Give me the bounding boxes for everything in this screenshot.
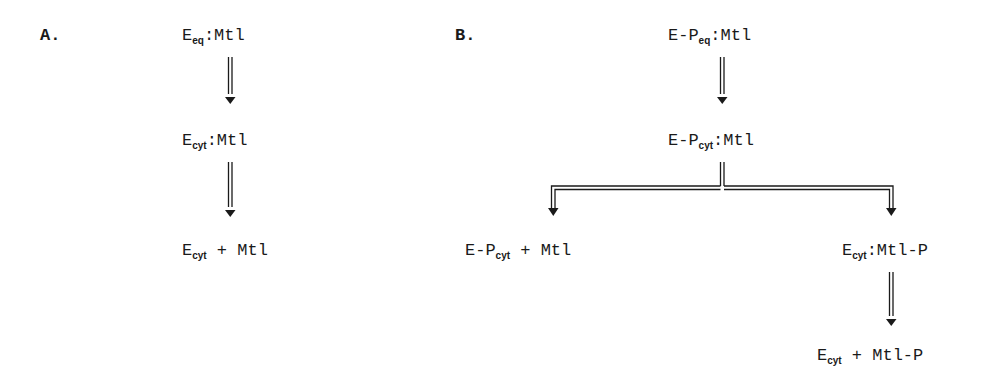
species-b-ep-cyt-plus-mtl: E-Pcyt + Mtl: [465, 241, 571, 261]
arrowhead-icon: [225, 97, 236, 104]
species-b-e-cyt-mtl-p: Ecyt:Mtl-P: [842, 241, 928, 261]
species-main: E: [182, 131, 192, 150]
arrow-b-branch-right: [724, 186, 893, 208]
species-rest: + Mtl: [510, 241, 571, 260]
species-subscript: cyt: [496, 250, 510, 261]
species-main: E: [182, 241, 192, 260]
species-rest: + Mtl-P: [842, 346, 924, 365]
species-subscript: eq: [699, 35, 711, 46]
arrow-a-cyt-to-dissociated: [229, 162, 233, 207]
species-subscript: cyt: [827, 355, 841, 366]
species-rest: :Mtl: [207, 131, 248, 150]
species-rest: + Mtl: [207, 241, 268, 260]
species-a-e-eq-mtl: Eeq:Mtl: [182, 26, 245, 46]
arrowhead-icon: [886, 319, 897, 326]
arrowhead-icon: [225, 210, 236, 217]
species-subscript: cyt: [699, 140, 713, 151]
panel-b-label: B.: [455, 26, 475, 45]
species-main: E-P: [668, 131, 699, 150]
species-rest: :Mtl: [713, 131, 754, 150]
species-main: E: [182, 26, 192, 45]
arrow-b-branch-left: [552, 186, 721, 208]
species-b-ep-cyt-mtl: E-Pcyt:Mtl: [668, 131, 754, 151]
arrow-b-complex-to-dissociated: [890, 272, 894, 316]
species-subscript: cyt: [192, 140, 206, 151]
species-main: E-P: [668, 26, 699, 45]
arrowhead-icon: [717, 97, 728, 104]
species-subscript: cyt: [852, 250, 866, 261]
arrow-a-eq-to-cyt: [229, 57, 233, 94]
species-subscript: cyt: [192, 250, 206, 261]
species-rest: :Mtl-P: [867, 241, 928, 260]
arrowhead-icon: [548, 208, 559, 216]
panel-a-label: A.: [40, 26, 60, 45]
species-b-e-cyt-plus-mtl-p: Ecyt + Mtl-P: [817, 346, 923, 366]
species-subscript: eq: [192, 35, 204, 46]
species-rest: :Mtl: [204, 26, 245, 45]
species-main: E-P: [465, 241, 496, 260]
arrows-layer: [0, 0, 991, 380]
species-rest: :Mtl: [710, 26, 751, 45]
species-main: E: [817, 346, 827, 365]
arrow-b-branch-trunk: [721, 162, 725, 186]
species-a-e-cyt-mtl: Ecyt:Mtl: [182, 131, 247, 151]
species-b-ep-eq-mtl: E-Peq:Mtl: [668, 26, 751, 46]
species-main: E: [842, 241, 852, 260]
species-a-e-cyt-plus-mtl: Ecyt + Mtl: [182, 241, 268, 261]
arrow-b-eq-to-cyt: [721, 57, 725, 94]
arrowhead-icon: [886, 208, 897, 216]
